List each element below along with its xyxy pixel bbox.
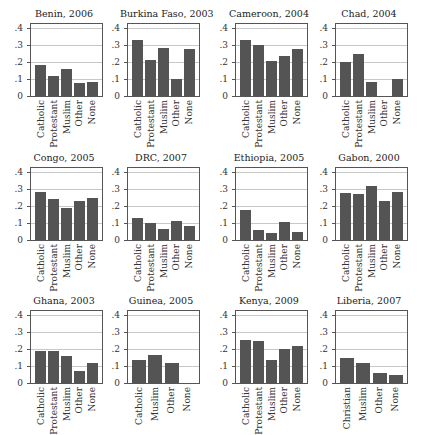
y-tick-label: 0 [210,236,228,245]
y-tick-label: .4 [5,311,23,320]
bar-muslim [266,61,277,96]
panel-title: Guinea, 2005 [120,295,202,306]
y-tick-label: 0 [210,92,228,101]
bar-other [279,56,290,96]
bar-other [171,221,182,240]
bar-catholic [340,62,351,96]
bar-none [389,375,403,383]
y-tick-label: .2 [5,58,23,67]
chart-panel: Kenya, 20090.1.2.3.4CatholicProtestantMu… [208,291,316,435]
y-tick-mark [332,28,336,29]
x-axis-labels: CatholicProtestantMuslimOtherNone [235,241,308,291]
x-tick-label: None [88,387,98,411]
x-tick-label: None [391,387,401,411]
bar-catholic [132,40,143,96]
x-tick-label: Other [280,244,290,270]
x-tick-label: None [88,100,98,124]
y-tick-label: .4 [5,24,23,33]
chart-panel: Congo, 20050.1.2.3.4CatholicProtestantMu… [3,148,111,292]
panel-title: Ethiopia, 2005 [228,152,310,163]
y-tick-mark [232,206,236,207]
bar-muslim [61,208,72,240]
bar-muslim [158,229,169,240]
y-tick-mark [27,315,31,316]
x-axis-labels: CatholicProtestantMuslimOtherNone [127,241,200,291]
y-tick-mark [27,79,31,80]
x-tick-label: Protestant [254,244,264,292]
y-tick-mark [124,349,128,350]
panel-title: Kenya, 2009 [228,295,310,306]
y-tick-label: .3 [310,41,328,50]
bar-none [184,226,195,240]
y-tick-label: 0 [102,92,120,101]
y-tick-mark [27,45,31,46]
x-tick-label: Muslim [62,387,72,421]
x-tick-label: Catholic [36,387,46,425]
y-tick-mark [232,366,236,367]
y-tick-mark [332,366,336,367]
panel-title: Burkina Faso, 2003 [120,8,202,19]
bar-other [74,83,85,96]
x-tick-label: None [293,244,303,268]
y-tick-label: .4 [310,168,328,177]
x-tick-label: Other [75,387,85,413]
x-axis-labels: CatholicProtestantMuslimOtherNone [30,97,103,147]
bar-protestant [253,341,264,383]
bar-protestant [253,230,264,240]
y-tick-label: .2 [102,202,120,211]
chart-panel: Ethiopia, 20050.1.2.3.4CatholicProtestan… [208,148,316,292]
bar-protestant [48,351,59,383]
y-tick-label: 0 [5,92,23,101]
y-tick-label: .4 [102,311,120,320]
bar-group [34,168,99,240]
x-tick-label: None [393,100,403,124]
x-tick-label: Catholic [133,244,143,282]
bar-none [292,346,303,383]
y-tick-label: .3 [102,185,120,194]
x-tick-label: Protestant [254,387,264,435]
x-tick-label: Catholic [241,100,251,138]
y-tick-mark [232,172,236,173]
y-tick-label: .4 [210,24,228,33]
x-tick-label: Muslim [358,387,368,421]
y-tick-mark [232,332,236,333]
y-tick-mark [124,62,128,63]
bar-catholic [340,193,351,240]
y-tick-label: .1 [210,75,228,84]
x-axis-labels: CatholicProtestantMuslimOtherNone [335,97,408,147]
chart-panel: DRC, 20070.1.2.3.4CatholicProtestantMusl… [100,148,208,292]
x-tick-label: Muslim [62,100,72,134]
y-tick-mark [27,62,31,63]
x-tick-label: Catholic [36,100,46,138]
panel-title: Liberia, 2007 [328,295,410,306]
y-tick-mark [27,366,31,367]
y-tick-mark [124,366,128,367]
plot-area: 0.1.2.3.4 [235,23,308,97]
y-tick-label: .3 [310,185,328,194]
x-tick-label: None [185,100,195,124]
x-tick-label: None [185,244,195,268]
bar-group [239,24,304,96]
y-tick-label: .3 [5,328,23,337]
bar-catholic [35,351,46,383]
bar-none [292,49,303,96]
y-tick-label: .3 [210,328,228,337]
plot-area: 0.1.2.3.4 [235,167,308,241]
chart-panel: Guinea, 20050.1.2.3.4CatholicMuslimOther… [100,291,208,435]
plot-area: 0.1.2.3.4 [30,23,103,97]
panel-title: Chad, 2004 [328,8,410,19]
y-tick-mark [124,315,128,316]
y-tick-label: 0 [5,379,23,388]
y-tick-label: 0 [102,379,120,388]
bar-group [239,168,304,240]
x-tick-label: Protestant [254,100,264,148]
y-tick-label: .1 [210,219,228,228]
y-tick-label: 0 [5,236,23,245]
x-tick-label: Protestant [49,244,59,292]
x-axis-labels: CatholicProtestantMuslimOtherNone [127,97,200,147]
y-tick-mark [232,189,236,190]
y-tick-mark [232,79,236,80]
panel-title: DRC, 2007 [120,152,202,163]
y-tick-label: .2 [210,58,228,67]
y-tick-label: .3 [5,185,23,194]
